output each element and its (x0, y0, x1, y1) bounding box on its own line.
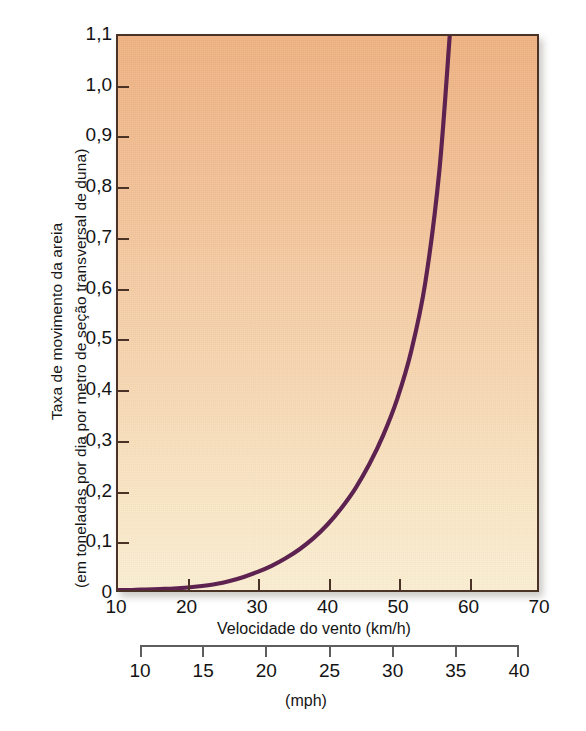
y-axis-tick (118, 441, 129, 443)
sand-movement-chart-figure: Taxa de movimento da areia (em toneladas… (0, 0, 586, 731)
x-axis-tick-label: 60 (458, 596, 479, 618)
y-axis-tick (118, 136, 129, 138)
x-axis-tick-label: 70 (528, 596, 549, 618)
y-axis-tick-label: 1,0 (56, 75, 112, 94)
y-axis-tick-label: 0,5 (56, 328, 112, 347)
mph-axis-tick-label: 30 (382, 660, 403, 682)
y-axis-tick (118, 187, 129, 189)
x-axis-tick (258, 579, 260, 590)
x-axis-tick (399, 579, 401, 590)
page-bottom-edge (0, 727, 586, 731)
x-axis-tick-label: 10 (105, 596, 126, 618)
y-axis-tick-label: 0,1 (56, 531, 112, 550)
plot-area (116, 34, 539, 592)
y-axis-tick (118, 238, 129, 240)
mph-axis-tick (455, 645, 457, 657)
y-axis-tick (118, 390, 129, 392)
y-axis-tick-label: 0,9 (56, 125, 112, 144)
sand-movement-curve-svg (118, 36, 537, 590)
y-axis-tick-label: 1,1 (56, 24, 112, 43)
y-axis-tick-label: 0,2 (56, 481, 112, 500)
mph-axis-tick (202, 645, 204, 657)
x-axis-tick (470, 579, 472, 590)
mph-axis-caption: (mph) (0, 692, 586, 710)
y-axis-tick (118, 339, 129, 341)
sand-movement-curve (118, 36, 450, 590)
x-axis-tick-label: 50 (387, 596, 408, 618)
x-axis-tick (188, 579, 190, 590)
y-axis-tick (118, 542, 129, 544)
x-axis-tick (329, 579, 331, 590)
x-axis-caption-text: Velocidade do vento (km/h) (175, 620, 411, 637)
x-axis-tick-label: 40 (317, 596, 338, 618)
mph-axis-tick-label: 15 (193, 660, 214, 682)
y-axis-tick-labels: 00,10,20,30,40,50,60,70,80,91,01,1 (56, 0, 112, 600)
mph-axis-tick-label: 25 (319, 660, 340, 682)
y-axis-tick (118, 86, 129, 88)
x-axis-tick-labels: 10203040506070 (0, 596, 586, 620)
mph-axis-tick-label: 40 (508, 660, 529, 682)
mph-axis-tick (517, 645, 519, 657)
mph-axis-tick (329, 645, 331, 657)
mph-axis-tick-label: 20 (256, 660, 277, 682)
y-axis-tick (118, 289, 129, 291)
mph-axis-caption-text: (mph) (259, 692, 327, 709)
mph-axis-tick (265, 645, 267, 657)
y-axis-tick (118, 492, 129, 494)
y-axis-tick-label: 0,7 (56, 227, 112, 246)
mph-axis-tick (392, 645, 394, 657)
x-axis-tick-label: 20 (176, 596, 197, 618)
mph-axis-tick-labels: 10152025303540 (0, 660, 586, 684)
y-axis-tick-label: 0,4 (56, 379, 112, 398)
mph-axis-tick (140, 645, 142, 657)
y-axis-tick-label: 0,3 (56, 430, 112, 449)
mph-axis-tick-label: 35 (445, 660, 466, 682)
secondary-mph-axis (140, 645, 519, 657)
x-axis-caption: Velocidade do vento (km/h) (0, 620, 586, 638)
y-axis-tick-label: 0,8 (56, 176, 112, 195)
mph-axis-tick-label: 10 (129, 660, 150, 682)
x-axis-tick-label: 30 (246, 596, 267, 618)
y-axis-tick-label: 0,6 (56, 278, 112, 297)
